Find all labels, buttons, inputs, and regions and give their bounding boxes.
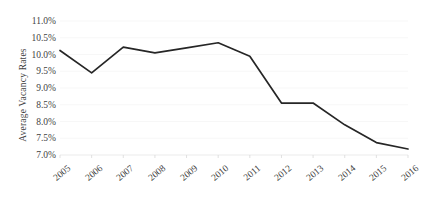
y-axis-tick-label: 8.0% bbox=[22, 117, 56, 127]
y-axis-tick-label: 11.0% bbox=[22, 16, 56, 26]
y-axis-tick-label: 9.0% bbox=[22, 83, 56, 93]
y-axis-tick-label: 10.5% bbox=[22, 33, 56, 43]
gridlines-group bbox=[60, 21, 408, 155]
x-axis-tick-label-group: 2005200620072008200920102011201220132014… bbox=[0, 155, 413, 200]
y-axis-tick-label: 9.5% bbox=[22, 66, 56, 76]
y-axis-tick-label: 8.5% bbox=[22, 100, 56, 110]
y-axis-tick-label-group: 11.0%10.5%10.0%9.5%9.0%8.5%8.0%7.5%7.0% bbox=[22, 16, 56, 156]
data-series-line-average-vacancy-rates bbox=[60, 43, 408, 149]
plot-area bbox=[60, 21, 408, 155]
chart-plot-svg bbox=[60, 21, 408, 155]
y-axis-tick-label: 7.5% bbox=[22, 133, 56, 143]
y-axis-tick-label: 10.0% bbox=[22, 50, 56, 60]
